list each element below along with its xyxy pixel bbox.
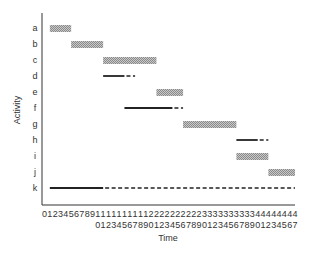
activity-bar-g [183,121,236,128]
x-tick-47: 4 [293,209,298,219]
x-tick-40: 4 [255,209,260,219]
activity-bar-c [103,57,156,64]
x-tick-17-ones: 7 [133,220,138,230]
x-tick-11-ones: 1 [101,220,106,230]
x-tick-2: 2 [53,209,58,219]
x-tick-32: 3 [213,209,218,219]
x-tick-20-ones: 0 [149,220,154,230]
x-tick-14: 1 [117,209,122,219]
x-tick-28-ones: 8 [191,220,196,230]
x-tick-24: 2 [170,209,175,219]
x-tick-23-ones: 3 [165,220,170,230]
x-tick-1: 1 [47,209,52,219]
x-tick-43: 4 [271,209,276,219]
x-tick-25: 2 [175,209,180,219]
x-tick-3: 3 [58,209,63,219]
x-tick-15: 1 [122,209,127,219]
x-tick-31-ones: 1 [207,220,212,230]
activity-label-g: g [32,119,37,129]
x-tick-36: 3 [234,209,239,219]
x-tick-30-ones: 0 [202,220,207,230]
x-tick-46-ones: 6 [287,220,292,230]
x-tick-45: 4 [282,209,287,219]
x-tick-29: 2 [197,209,202,219]
x-tick-19-ones: 9 [143,220,148,230]
x-tick-12: 1 [106,209,111,219]
x-tick-12-ones: 2 [106,220,111,230]
x-tick-18: 1 [138,209,143,219]
x-tick-44-ones: 4 [277,220,282,230]
activity-bars [50,25,295,188]
x-tick-33-ones: 3 [218,220,223,230]
activity-label-d: d [32,71,37,81]
x-tick-23: 2 [165,209,170,219]
x-tick-4: 4 [63,209,68,219]
x-tick-35-ones: 5 [229,220,234,230]
x-tick-21-ones: 1 [154,220,159,230]
activity-bar-a [50,25,71,32]
x-tick-32-ones: 2 [213,220,218,230]
x-tick-39-ones: 9 [250,220,255,230]
x-tick-16-ones: 6 [127,220,132,230]
x-tick-30: 3 [202,209,207,219]
x-tick-44: 4 [277,209,282,219]
x-tick-19: 1 [143,209,148,219]
activity-bar-b [71,41,103,48]
x-tick-37: 3 [239,209,244,219]
x-tick-31: 3 [207,209,212,219]
x-tick-13: 1 [111,209,116,219]
x-tick-35: 3 [229,209,234,219]
x-tick-25-ones: 5 [175,220,180,230]
activity-label-a: a [32,23,37,33]
x-tick-7: 7 [79,209,84,219]
x-tick-0: 0 [42,209,47,219]
y-axis-title: Activity [12,95,22,124]
x-tick-21: 2 [154,209,159,219]
x-tick-36-ones: 6 [234,220,239,230]
activity-bar-e [156,89,183,96]
activity-label-i: i [34,151,36,161]
x-tick-27: 2 [186,209,191,219]
activity-label-h: h [32,135,37,145]
x-tick-38-ones: 8 [245,220,250,230]
activity-bar-j [268,169,295,176]
x-tick-labels: 0123456789101112131415161718192021222324… [42,209,298,230]
x-tick-41: 4 [261,209,266,219]
x-tick-34: 3 [223,209,228,219]
x-tick-9: 9 [90,209,95,219]
x-tick-26-ones: 6 [181,220,186,230]
x-tick-38: 3 [245,209,250,219]
x-tick-6: 6 [74,209,79,219]
gantt-chart: Activity abcdefghijk 0123456789101112131… [0,0,310,254]
x-tick-46: 4 [287,209,292,219]
x-tick-40-ones: 0 [255,220,260,230]
x-tick-8: 8 [85,209,90,219]
x-tick-43-ones: 3 [271,220,276,230]
x-tick-22: 2 [159,209,164,219]
x-tick-45-ones: 5 [282,220,287,230]
x-tick-39: 3 [250,209,255,219]
activity-label-f: f [34,103,37,113]
x-tick-24-ones: 4 [170,220,175,230]
activity-labels: abcdefghijk [32,23,37,193]
x-tick-26: 2 [181,209,186,219]
x-tick-37-ones: 7 [239,220,244,230]
activity-label-b: b [32,39,37,49]
activity-label-e: e [32,87,37,97]
x-tick-20: 2 [149,209,154,219]
x-tick-5: 5 [69,209,74,219]
x-tick-47-ones: 7 [293,220,298,230]
x-tick-10: 1 [95,209,100,219]
x-tick-22-ones: 2 [159,220,164,230]
x-tick-16: 1 [127,209,132,219]
activity-label-j: j [33,167,36,177]
x-tick-17: 1 [133,209,138,219]
x-tick-34-ones: 4 [223,220,228,230]
x-tick-28: 2 [191,209,196,219]
x-axis-title: Time [158,233,178,243]
x-tick-18-ones: 8 [138,220,143,230]
activity-label-c: c [33,55,38,65]
activity-label-k: k [33,183,38,193]
x-tick-42-ones: 2 [266,220,271,230]
x-tick-10-ones: 0 [95,220,100,230]
